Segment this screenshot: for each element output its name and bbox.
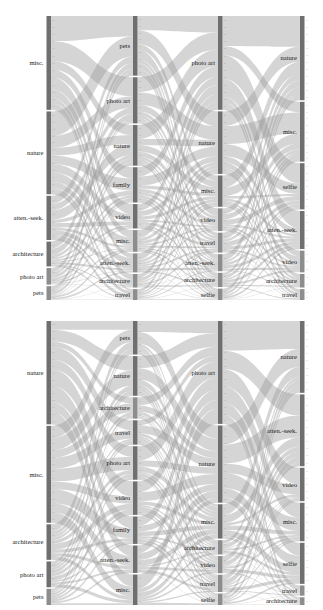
sankey-axis-tick: — [138, 350, 142, 353]
sankey-node-bar[interactable] [133, 321, 138, 355]
sankey-axis-tick: — [51, 206, 55, 209]
sankey-node-bar[interactable] [133, 446, 138, 480]
sankey-axis-tick: — [223, 55, 227, 58]
sankey-node-bar[interactable] [300, 585, 305, 595]
sankey-node-bar[interactable] [47, 561, 52, 587]
sankey-node-bar[interactable] [133, 125, 138, 166]
sankey-axis-tick: — [223, 194, 227, 197]
sankey-axis-tick: — [305, 198, 309, 201]
sankey-node-bar[interactable] [218, 426, 223, 503]
sankey-axis-tick: — [223, 498, 227, 501]
sankey-node-bar[interactable] [133, 253, 138, 272]
sankey-node-label: travel [282, 587, 297, 594]
sankey-node-bar[interactable] [133, 289, 138, 300]
sankey-node-bar[interactable] [218, 175, 223, 206]
sankey-node-bar[interactable] [47, 286, 52, 300]
sankey-axis-tick: — [305, 483, 309, 486]
sankey-node-bar[interactable] [300, 163, 305, 209]
sankey-node-bar[interactable] [133, 575, 138, 605]
sankey-node-bar[interactable] [300, 503, 305, 541]
sankey-node-bar[interactable] [300, 321, 305, 393]
sankey-node-bar[interactable] [47, 426, 52, 523]
sankey-node-bar[interactable] [218, 111, 223, 174]
sankey-node-bar[interactable] [133, 546, 138, 573]
sankey-axis-tick: — [51, 169, 55, 172]
sankey-node-bar[interactable] [300, 251, 305, 273]
sankey-node-label: video [200, 216, 215, 223]
sankey-axis-tick: — [305, 552, 309, 555]
sankey-node-bar[interactable] [218, 556, 223, 573]
sankey-node-bar[interactable] [218, 540, 223, 554]
sankey-axis-tick: — [305, 291, 309, 294]
sankey-node-bar[interactable] [218, 504, 223, 538]
sankey-axis-tick: — [305, 497, 309, 500]
sankey-node-bar[interactable] [47, 524, 52, 560]
sankey-node-bar[interactable] [300, 211, 305, 249]
sankey-node-bar[interactable] [218, 289, 223, 300]
sankey-node-bar[interactable] [300, 597, 305, 605]
sankey-axis-tick: — [223, 543, 227, 546]
sankey-node-bar[interactable] [218, 233, 223, 253]
sankey-axis-tick: — [138, 106, 142, 109]
sankey-axis-tick: — [223, 156, 227, 159]
sankey-node-bar[interactable] [300, 289, 305, 300]
sankey-axis-tick: — [138, 184, 142, 187]
sankey-axis-tick: — [138, 283, 142, 286]
sankey-axis-tick: — [305, 111, 309, 114]
sankey-node-bar[interactable] [133, 204, 138, 228]
sankey-node-bar[interactable] [218, 321, 223, 424]
sankey-node-bar[interactable] [47, 268, 52, 285]
sankey-node-bar[interactable] [218, 254, 223, 271]
sankey-node-bar[interactable] [133, 397, 138, 418]
sankey-node-bar[interactable] [218, 575, 223, 592]
sankey-axis-tick: — [223, 456, 227, 459]
sankey-node-bar[interactable] [300, 274, 305, 288]
sankey-axis-tick: — [223, 121, 227, 124]
sankey-node-bar[interactable] [133, 167, 138, 202]
sankey-node-bar[interactable] [218, 16, 223, 110]
sankey-axis-tick: — [138, 378, 142, 381]
sankey-node-bar[interactable] [133, 516, 138, 543]
sankey-node-bar[interactable] [47, 321, 52, 424]
sankey-node-bar[interactable] [133, 274, 138, 288]
sankey-node-bar[interactable] [133, 16, 138, 76]
sankey-axis-tick: — [305, 283, 309, 286]
sankey-axis-tick: — [138, 407, 142, 410]
sankey-node-bar[interactable] [47, 196, 52, 240]
sankey-node-label: photo art [106, 459, 130, 466]
sankey-node-bar[interactable] [47, 16, 52, 110]
sankey-node-bar[interactable] [300, 394, 305, 466]
sankey-node-bar[interactable] [218, 208, 223, 231]
sankey-node-bar[interactable] [133, 481, 138, 515]
sankey-axis-tick: — [138, 449, 142, 452]
sankey-axis-tick: — [51, 406, 55, 409]
sankey-node-bar[interactable] [218, 273, 223, 287]
sankey-node-bar[interactable] [300, 468, 305, 501]
sankey-axis-tick: — [51, 135, 55, 138]
sankey-axis-tick: — [223, 62, 227, 65]
sankey-node-bar[interactable] [133, 356, 138, 396]
sankey-node-bar[interactable] [47, 111, 52, 194]
sankey-node-bar[interactable] [133, 77, 138, 123]
sankey-axis-tick: — [138, 462, 142, 465]
sankey-node-bar[interactable] [133, 420, 138, 444]
sankey-node-bar[interactable] [47, 242, 52, 267]
sankey-axis-tick: — [51, 121, 55, 124]
sankey-node-bar[interactable] [133, 230, 138, 252]
sankey-axis-tick: — [51, 105, 55, 108]
sankey-axis-tick: — [305, 477, 309, 480]
sankey-axis-tick: — [305, 104, 309, 107]
sankey-axis-tick: — [51, 600, 55, 603]
sankey-axis-tick: — [305, 131, 309, 134]
sankey-node-bar[interactable] [300, 16, 305, 100]
sankey-axis-tick: — [138, 358, 142, 361]
sankey-node-bar[interactable] [300, 102, 305, 162]
sankey-axis-tick: — [51, 256, 55, 259]
sankey-node-bar[interactable] [47, 589, 52, 605]
sankey-node-bar[interactable] [300, 543, 305, 584]
sankey-svg-top: misc.natureatten.-seek.architecturephoto… [0, 0, 323, 305]
sankey-node-label: misc. [116, 586, 130, 593]
sankey-node-bar[interactable] [218, 594, 223, 605]
sankey-flow [223, 604, 301, 605]
sankey-axis-tick: — [223, 128, 227, 131]
